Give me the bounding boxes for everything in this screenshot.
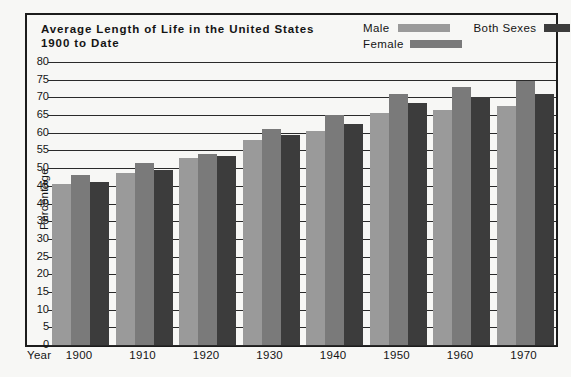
bar-both-sexes-1970: [535, 94, 554, 345]
x-axis-title: Year: [27, 349, 51, 361]
bar-female-1900: [71, 175, 90, 345]
bar-female-1960: [452, 87, 471, 345]
y-axis-tick-label: 20: [27, 267, 49, 279]
bar-female-1940: [325, 115, 344, 345]
x-axis-tick-label-1900: 1900: [66, 349, 93, 361]
bars-layer: [48, 15, 556, 345]
chart-figure: Average Length of Life in the United Sta…: [0, 0, 571, 377]
y-axis-title: Percentage: [38, 144, 50, 254]
bar-male-1970: [497, 106, 516, 345]
bar-female-1970: [516, 81, 535, 345]
bar-male-1910: [116, 173, 135, 345]
bar-both-sexes-1930: [281, 135, 300, 345]
bar-male-1950: [370, 113, 389, 345]
x-axis: Year 19001910192019301940195019601970: [27, 349, 556, 369]
bar-both-sexes-1910: [154, 170, 173, 345]
bar-male-1940: [306, 131, 325, 345]
bar-both-sexes-1940: [344, 124, 363, 345]
x-axis-tick-label-1950: 1950: [383, 349, 410, 361]
bar-female-1920: [198, 154, 217, 345]
bar-group-1900: [52, 15, 109, 345]
bar-group-1960: [433, 15, 490, 345]
x-axis-tick-label-1920: 1920: [193, 349, 220, 361]
y-axis-tick-label: 5: [27, 320, 49, 332]
bar-group-1910: [116, 15, 173, 345]
bar-both-sexes-1900: [90, 182, 109, 345]
y-axis-tick-label: 15: [27, 285, 49, 297]
y-axis-tick-label: 65: [27, 108, 49, 120]
y-axis-tick-label: 75: [27, 73, 49, 85]
bar-female-1910: [135, 163, 154, 345]
bar-group-1970: [497, 15, 554, 345]
bar-both-sexes-1950: [408, 103, 427, 345]
frame-right-border: [556, 13, 558, 347]
bar-both-sexes-1960: [471, 97, 490, 345]
y-axis-tick-label: 60: [27, 126, 49, 138]
bar-male-1920: [179, 158, 198, 345]
x-axis-tick-label-1930: 1930: [256, 349, 283, 361]
y-axis-tick-label: 10: [27, 303, 49, 315]
bar-group-1950: [370, 15, 427, 345]
bar-male-1900: [52, 184, 71, 345]
bar-group-1930: [243, 15, 300, 345]
plot-area: 80757065605550454035302520151050 Percent…: [27, 15, 556, 345]
bar-male-1960: [433, 110, 452, 345]
bar-both-sexes-1920: [217, 156, 236, 345]
y-axis-tick-label: 70: [27, 90, 49, 102]
bar-female-1930: [262, 129, 281, 345]
x-axis-tick-label-1970: 1970: [510, 349, 537, 361]
y-axis-tick-label: 80: [27, 55, 49, 67]
gridline: [48, 345, 556, 346]
x-axis-tick-label-1960: 1960: [447, 349, 474, 361]
bar-male-1930: [243, 140, 262, 345]
x-axis-tick-label-1910: 1910: [129, 349, 156, 361]
bar-female-1950: [389, 94, 408, 345]
bar-group-1920: [179, 15, 236, 345]
bar-group-1940: [306, 15, 363, 345]
x-axis-tick-label-1940: 1940: [320, 349, 347, 361]
